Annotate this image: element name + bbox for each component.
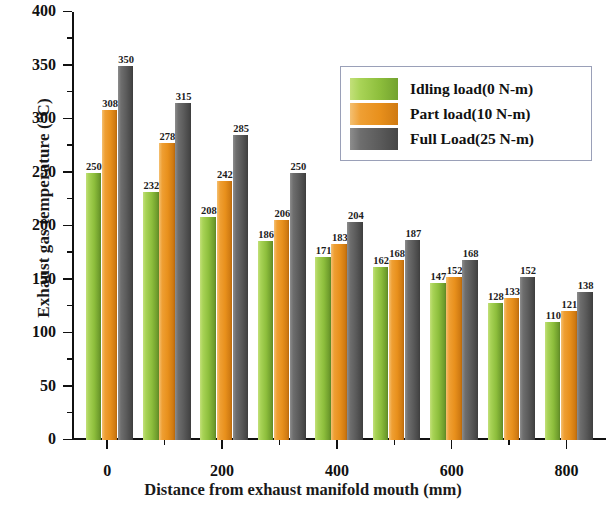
bar-value-label: 250	[291, 161, 307, 172]
x-axis-major-tick: 400	[336, 440, 338, 449]
y-axis-line	[72, 12, 74, 440]
bar: 147	[430, 283, 446, 440]
bar: 138	[577, 292, 593, 440]
bar: 168	[389, 260, 405, 440]
bar: 308	[102, 110, 118, 440]
y-axis-minor-tick	[67, 305, 72, 307]
bar: 232	[143, 192, 159, 440]
bar-value-label: 128	[488, 291, 504, 302]
x-axis-major-tick: 200	[221, 440, 223, 449]
legend-item-idling-load: Idling load(0 N-m)	[350, 76, 581, 101]
y-axis-minor-tick	[67, 144, 72, 146]
legend-swatch-icon-full-load	[350, 128, 398, 150]
x-axis-major-tick: 600	[451, 440, 453, 449]
bar: 187	[405, 240, 421, 440]
x-axis-minor-tick	[279, 440, 281, 445]
bar-value-label: 208	[201, 205, 217, 216]
bar-value-label: 152	[520, 265, 536, 276]
bar-value-label: 147	[431, 271, 447, 282]
bar: 168	[462, 260, 478, 440]
bar: 208	[200, 217, 216, 440]
legend-item-full-load: Full Load(25 N-m)	[350, 126, 581, 151]
y-axis-major-tick: 200	[63, 225, 72, 227]
bar: 315	[175, 103, 191, 440]
y-axis-tick-label: 200	[32, 216, 56, 234]
y-axis-minor-tick	[67, 358, 72, 360]
bar: 285	[233, 135, 249, 440]
bar: 162	[373, 267, 389, 440]
y-axis-major-tick: 0	[63, 439, 72, 441]
y-axis-major-tick: 50	[63, 385, 72, 387]
bar-value-label: 315	[176, 91, 192, 102]
legend: Idling load(0 N-m) Part load(10 N-m) Ful…	[340, 66, 592, 161]
x-axis-major-tick: 0	[106, 440, 108, 449]
y-axis-tick-label: 0	[48, 430, 56, 448]
bar: 171	[315, 257, 331, 440]
y-axis-minor-tick	[67, 37, 72, 39]
bar-value-label: 278	[160, 131, 176, 142]
bar: 186	[258, 241, 274, 440]
bar-value-label: 206	[274, 208, 290, 219]
bar-value-label: 285	[233, 123, 249, 134]
bar-value-label: 133	[504, 286, 520, 297]
bar-value-label: 168	[463, 248, 479, 259]
bar-value-label: 232	[144, 180, 160, 191]
bar: 110	[545, 322, 561, 440]
bar: 128	[488, 303, 504, 440]
y-axis-tick-label: 350	[32, 56, 56, 74]
bar-value-label: 183	[332, 232, 348, 243]
bar-value-label: 162	[373, 255, 389, 266]
bar-value-label: 171	[316, 245, 332, 256]
bar: 250	[86, 173, 102, 441]
y-axis-major-tick: 400	[63, 11, 72, 13]
bar: 121	[561, 311, 577, 440]
legend-swatch-icon-part-load	[350, 103, 398, 125]
y-axis-tick-label: 250	[32, 163, 56, 181]
bar: 242	[217, 181, 233, 440]
bar: 206	[274, 220, 290, 440]
y-axis-major-tick: 150	[63, 278, 72, 280]
x-axis-tick-label: 600	[440, 462, 464, 480]
bar: 278	[159, 143, 175, 440]
y-axis-minor-tick	[67, 198, 72, 200]
bar-value-label: 204	[348, 210, 364, 221]
x-axis-minor-tick	[508, 440, 510, 445]
bar-value-label: 186	[258, 229, 274, 240]
x-axis-tick-label: 400	[325, 462, 349, 480]
bar-value-label: 121	[562, 299, 578, 310]
bar-value-label: 250	[86, 161, 102, 172]
legend-label-part-load: Part load(10 N-m)	[410, 105, 531, 123]
legend-label-full-load: Full Load(25 N-m)	[410, 130, 534, 148]
bar: 250	[290, 173, 306, 441]
bar: 152	[520, 277, 536, 440]
bar-value-label: 152	[447, 265, 463, 276]
bar-value-label: 110	[546, 310, 561, 321]
bar: 350	[118, 66, 134, 441]
y-axis-minor-tick	[67, 251, 72, 253]
x-axis-title: Distance from exhaust manifold mouth (mm…	[0, 480, 606, 500]
y-axis-tick-label: 100	[32, 323, 56, 341]
x-axis-tick-label: 200	[210, 462, 234, 480]
y-axis-minor-tick	[67, 412, 72, 414]
bar-value-label: 308	[102, 98, 118, 109]
bar: 152	[446, 277, 462, 440]
y-axis-tick-label: 50	[40, 377, 56, 395]
x-axis-minor-tick	[394, 440, 396, 445]
x-axis-tick-label: 0	[103, 462, 111, 480]
legend-label-idling-load: Idling load(0 N-m)	[410, 80, 533, 98]
y-axis-major-tick: 250	[63, 171, 72, 173]
y-axis-tick-label: 400	[32, 2, 56, 20]
y-axis-tick-label: 300	[32, 109, 56, 127]
bar-value-label: 138	[578, 280, 594, 291]
bar: 183	[331, 244, 347, 440]
y-axis-tick-label: 150	[32, 270, 56, 288]
bar-value-label: 168	[389, 248, 405, 259]
exhaust-gas-temperature-bar-chart: Exhaust gas temperature (°C) 05010015020…	[0, 0, 606, 509]
legend-swatch-icon-idling-load	[350, 78, 398, 100]
y-axis-major-tick: 100	[63, 332, 72, 334]
x-axis-tick-label: 800	[555, 462, 579, 480]
bar-value-label: 350	[118, 54, 134, 65]
bar: 133	[504, 298, 520, 440]
bar-value-label: 187	[405, 228, 421, 239]
y-axis-minor-tick	[67, 91, 72, 93]
